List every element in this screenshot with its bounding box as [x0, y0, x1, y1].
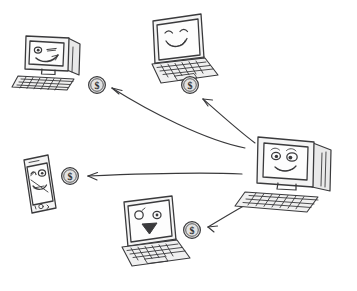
- target-desktop[interactable]: [12, 36, 80, 90]
- coin-symbol: $: [95, 80, 100, 91]
- arrow-to-laptop-sad: [208, 203, 249, 232]
- coin-symbol: $: [68, 171, 73, 182]
- coin-to-phone[interactable]: $: [62, 168, 79, 185]
- arrow-to-laptop-happy: [203, 99, 255, 143]
- target-phone[interactable]: [24, 155, 56, 213]
- coin-to-laptop-sad[interactable]: $: [184, 222, 201, 239]
- arrow-to-phone: [88, 173, 242, 181]
- diagram-canvas: Central computer distributing money to c…: [0, 0, 357, 291]
- sketch-diagram: Central computer distributing money to c…: [0, 0, 357, 291]
- coin-symbol: $: [190, 225, 195, 236]
- target-laptop-happy[interactable]: [152, 14, 218, 83]
- target-laptop-sad[interactable]: [122, 196, 190, 266]
- coin-to-desktop[interactable]: $: [89, 77, 106, 94]
- coin-to-laptop-happy[interactable]: $: [182, 77, 199, 94]
- source-desktop[interactable]: [235, 137, 331, 212]
- coin-symbol: $: [188, 80, 193, 91]
